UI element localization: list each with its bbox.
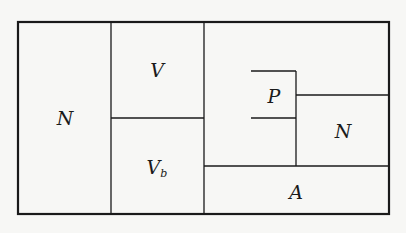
region-label-a: A bbox=[289, 181, 303, 203]
subscript-b: b bbox=[160, 167, 167, 180]
region-label-n-left: N bbox=[57, 107, 74, 129]
region-label-n-right: N bbox=[335, 120, 352, 142]
region-label-p: P bbox=[268, 85, 281, 107]
region-label-v: V bbox=[150, 59, 164, 81]
region-label-vb: Vb bbox=[147, 156, 168, 180]
